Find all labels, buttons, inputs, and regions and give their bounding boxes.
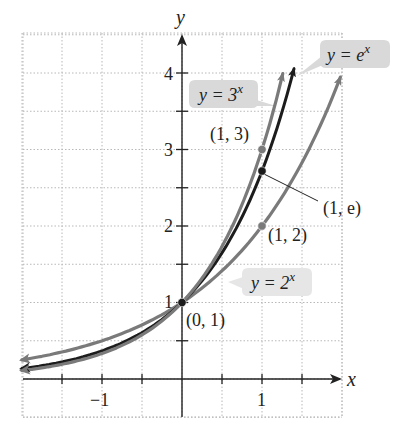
exponential-functions-chart: x y −1 1 1 2 3 4 y = 3x y = ex y = 2x (0… (0, 0, 404, 438)
y-tick-label-4: 4 (164, 64, 173, 84)
y-tick-label-2: 2 (164, 216, 173, 236)
x-tick-label-1: 1 (257, 390, 266, 410)
callout-3x-text: y = 3 (197, 85, 237, 105)
point-label-1-e: (1, e) (323, 198, 361, 219)
x-axis-label: x (346, 368, 356, 390)
callout-3x: y = 3x (189, 80, 276, 108)
y-tick-label-3: 3 (164, 140, 173, 160)
svg-text:y = 3x: y = 3x (197, 81, 243, 105)
callout-2x-exp: x (288, 269, 295, 284)
callout-3x-exp: x (236, 81, 243, 96)
callout-ex-text: y = e (325, 45, 364, 65)
point-label-1-3: (1, 3) (210, 124, 249, 145)
callout-2x-text: y = 2 (249, 273, 289, 293)
callout-ex-exp: x (363, 41, 370, 56)
point-marker (258, 167, 266, 175)
point-label-1-2: (1, 2) (268, 225, 307, 246)
svg-text:y = 2x: y = 2x (249, 269, 295, 293)
y-axis-label: y (174, 6, 185, 29)
point-label-0-1: (0, 1) (186, 310, 225, 331)
callout-2x: y = 2x (228, 268, 312, 296)
x-tick-label-neg1: −1 (90, 390, 109, 410)
svg-text:y = ex: y = ex (325, 41, 370, 65)
curves (19, 69, 340, 375)
callout-ex: y = ex (297, 40, 390, 76)
point-marker (258, 145, 266, 153)
curve-y-2-x (22, 77, 340, 360)
point-marker (178, 298, 186, 306)
point-marker (258, 222, 266, 230)
